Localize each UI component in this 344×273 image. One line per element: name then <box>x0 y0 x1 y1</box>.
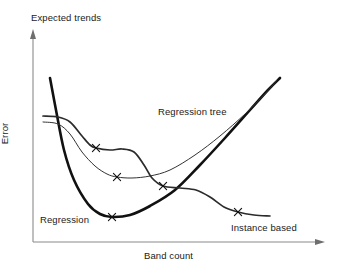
chart-axes <box>30 29 325 245</box>
x-axis-label: Band count <box>144 250 193 261</box>
chart-data-markers <box>92 144 241 220</box>
y-axis-arrow-icon <box>30 29 36 39</box>
series-label-regression: Regression <box>40 214 89 225</box>
series-line-regression <box>50 78 280 217</box>
chart-title: Expected trends <box>31 12 101 23</box>
series-label-instance-based: Instance based <box>231 222 297 233</box>
series-line-regression-tree <box>43 80 277 178</box>
expected-trends-chart: Expected trends Error Band count Regress… <box>0 0 344 273</box>
series-label-regression-tree: Regression tree <box>158 106 227 117</box>
y-axis-label: Error <box>0 123 10 145</box>
chart-series-group <box>43 78 280 217</box>
x-axis-arrow-icon <box>315 239 325 245</box>
